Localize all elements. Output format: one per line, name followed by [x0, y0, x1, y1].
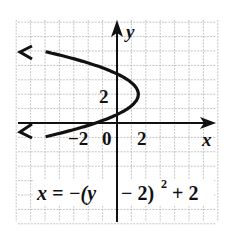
equation-label: x = −(y − 2) 2 + 2: [34, 177, 214, 208]
curve-lower-arrow-icon: [20, 124, 32, 138]
parabola-graph: y x 2 −2 0 2 x = −(y − 2) 2 + 2: [0, 0, 228, 232]
x-axis-label: x: [201, 129, 212, 150]
x-tick-neg2: −2: [68, 128, 88, 149]
equation-exponent: 2: [161, 177, 167, 191]
origin-label: 0: [102, 128, 112, 149]
x-tick-2: 2: [137, 128, 147, 149]
y-tick-2: 2: [99, 86, 109, 107]
equation-lhs: x = −(y: [36, 182, 96, 205]
equation-tail: + 2: [172, 182, 198, 204]
y-axis-label: y: [124, 21, 135, 42]
equation-rhs: − 2): [121, 182, 154, 205]
svg-text:x = −(y: x = −(y: [36, 182, 96, 205]
